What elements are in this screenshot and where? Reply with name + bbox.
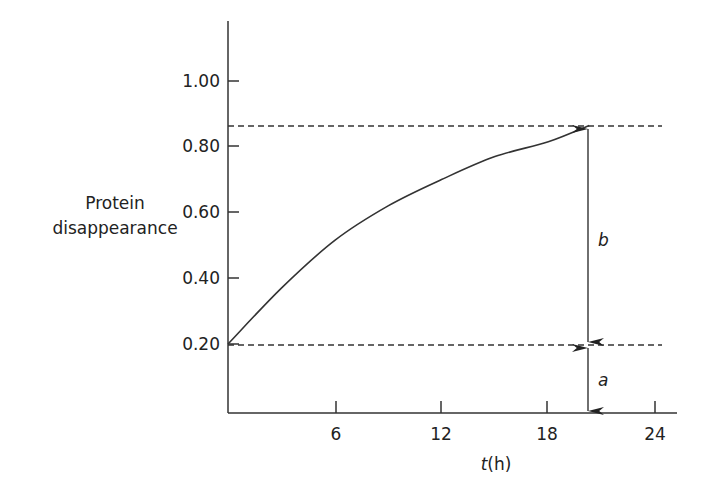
x-tick-labels: 6 12 18 24 <box>331 424 666 444</box>
y-tick-labels: 1.00 0.80 0.60 0.40 0.20 <box>182 71 220 354</box>
x-ticks <box>336 401 655 413</box>
y-tick-label: 0.20 <box>182 334 220 354</box>
x-axis-label: t(h) <box>481 454 512 474</box>
a-label: a <box>598 370 608 390</box>
y-tick-label: 0.80 <box>182 136 220 156</box>
y-tick-label: 0.60 <box>182 202 220 222</box>
x-tick-label: 24 <box>644 424 666 444</box>
y-tick-label: 0.40 <box>182 268 220 288</box>
y-ticks <box>228 81 239 344</box>
x-tick-label: 18 <box>536 424 558 444</box>
y-axis-label-line1: Protein <box>85 193 145 213</box>
y-axis-label-line2: disappearance <box>52 218 177 238</box>
x-tick-label: 6 <box>331 424 342 444</box>
b-label: b <box>598 230 609 250</box>
x-tick-label: 12 <box>430 424 452 444</box>
data-curve <box>228 125 589 344</box>
chart: 1.00 0.80 0.60 0.40 0.20 6 12 18 24 t(h)… <box>0 0 702 494</box>
y-tick-label: 1.00 <box>182 71 220 91</box>
